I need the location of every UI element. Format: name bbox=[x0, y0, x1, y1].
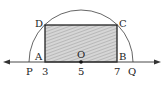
label-b: B bbox=[119, 51, 126, 62]
right-arrow-icon bbox=[154, 60, 161, 65]
label-a: A bbox=[34, 51, 43, 62]
tick-5: 5 bbox=[78, 66, 84, 77]
point-o-dot bbox=[79, 60, 83, 64]
tick-7: 7 bbox=[114, 66, 120, 77]
label-o: O bbox=[77, 49, 85, 60]
label-c: C bbox=[119, 18, 127, 29]
tick-3: 3 bbox=[42, 66, 48, 77]
label-p: P bbox=[26, 66, 33, 77]
left-arrow-icon bbox=[3, 60, 10, 65]
geometry-figure: D C A O B P Q 3 5 7 bbox=[0, 0, 167, 86]
label-d: D bbox=[35, 18, 43, 29]
label-q: Q bbox=[128, 66, 136, 77]
diagram: D C A O B P Q 3 5 7 bbox=[0, 0, 167, 86]
